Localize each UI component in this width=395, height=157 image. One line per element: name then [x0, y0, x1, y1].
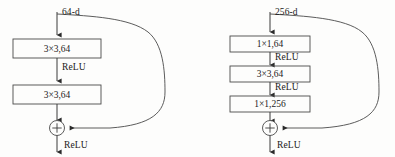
bottleneck-block-layer-2: 3×3,64 [230, 66, 310, 82]
basic-block-layer-2-label: 3×3,64 [44, 90, 71, 100]
bottleneck-block-layer-1: 1×1,64 [230, 36, 310, 52]
bottleneck-block-input-label: 256-d [275, 8, 298, 18]
bottleneck-block-layer-2-label: 3×3,64 [257, 69, 284, 79]
basic-block-layer-1: 3×3,64 [13, 39, 101, 58]
bottleneck-block-relu-2-label: ReLU [275, 83, 299, 93]
basic-block-output-relu-label: ReLU [64, 141, 88, 151]
bottleneck-block-relu-1-label: ReLU [275, 53, 299, 63]
basic-block-layer-1-label: 3×3,64 [44, 44, 71, 54]
bottleneck-block-layer-3: 1×1,256 [230, 96, 310, 112]
basic-block-graphics [13, 12, 165, 152]
basic-block-input-label: 64-d [62, 8, 80, 18]
bottleneck-block-output-relu-label: ReLU [277, 141, 301, 151]
basic-block-layer-2: 3×3,64 [13, 85, 101, 104]
diagram-vector-layer [0, 0, 395, 157]
basic-block-relu-1-label: ReLU [62, 63, 86, 73]
bottleneck-block-layer-3-label: 1×1,256 [254, 99, 285, 109]
bottleneck-block-graphics [230, 12, 379, 152]
figure-canvas: 64-d 3×3,64 ReLU 3×3,64 ReLU 256-d 1×1,6… [0, 0, 395, 157]
bottleneck-block-layer-1-label: 1×1,64 [257, 39, 284, 49]
